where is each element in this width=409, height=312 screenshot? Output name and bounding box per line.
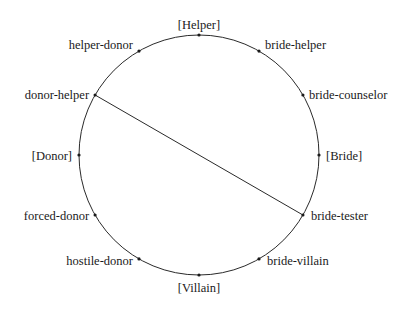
node-dot [93,213,96,216]
node-label: [Helper] [178,18,220,32]
node-label: donor-helper [25,88,90,102]
node-label: bride-helper [265,38,327,52]
node-dot [197,33,200,36]
node-bride: [Bride] [317,149,362,163]
node-bride-helper: bride-helper [257,38,327,53]
edge-donor-helper-to-bride-tester [95,95,303,215]
node-dot [257,257,260,260]
node-label: helper-donor [69,38,134,52]
node-donor-helper: donor-helper [25,88,97,102]
edges-group [95,95,303,215]
node-bride-tester: bride-tester [301,209,368,223]
node-label: [Donor] [32,149,72,163]
node-label: bride-tester [311,209,369,223]
node-bride-villain: bride-villain [257,254,329,268]
node-dot [301,213,304,216]
node-hostile-donor: hostile-donor [66,254,140,268]
node-dot [77,153,80,156]
node-donor: [Donor] [32,149,81,163]
node-villain: [Villain] [178,273,220,295]
node-dot [137,49,140,52]
role-circle-diagram: [Helper]bride-helperbride-counselor[Brid… [0,0,409,312]
node-dot [137,257,140,260]
node-dot [93,93,96,96]
node-dot [301,93,304,96]
node-dot [317,153,320,156]
node-dot [257,49,260,52]
node-label: bride-villain [267,254,330,268]
node-forced-donor: forced-donor [24,209,97,223]
node-label: [Villain] [178,281,220,295]
node-helper-donor: helper-donor [69,38,141,53]
node-label: hostile-donor [66,254,133,268]
node-label: bride-counselor [309,88,388,102]
node-label: [Bride] [326,149,362,163]
node-dot [197,273,200,276]
nodes-group: [Helper]bride-helperbride-counselor[Brid… [24,18,388,295]
node-label: forced-donor [24,209,90,223]
node-helper: [Helper] [178,18,220,37]
node-bride-counselor: bride-counselor [301,88,388,102]
